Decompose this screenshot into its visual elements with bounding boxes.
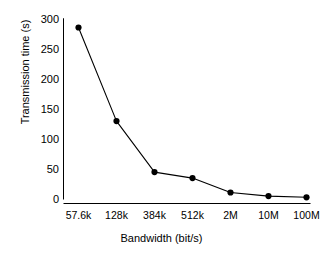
data-point xyxy=(303,194,309,200)
x-tick-label: 128k xyxy=(105,209,128,221)
x-axis-title: Bandwidth (bit/s) xyxy=(0,232,323,244)
plot-area xyxy=(63,14,311,204)
x-tick-label: 10M xyxy=(258,209,278,221)
y-tick-label: 300 xyxy=(25,14,59,25)
y-tick-label: 50 xyxy=(25,164,59,175)
series-markers xyxy=(75,24,309,200)
x-tick-label: 512k xyxy=(181,209,204,221)
x-tick-label: 2M xyxy=(223,209,238,221)
chart-svg xyxy=(63,14,311,204)
x-axis-tick-labels: 57.6k 128k 384k 512k 2M 10M 100M xyxy=(0,209,323,225)
y-tick-label: 0 xyxy=(25,194,59,205)
x-tick-label: 57.6k xyxy=(66,209,92,221)
data-point xyxy=(113,118,119,124)
data-point xyxy=(189,175,195,181)
data-point xyxy=(75,24,81,30)
chart-figure: Transmission time (s) 300 250 200 150 10… xyxy=(0,0,323,255)
data-point xyxy=(265,193,271,199)
x-tick-label: 100M xyxy=(293,209,319,221)
data-point xyxy=(151,169,157,175)
series-line xyxy=(79,28,307,198)
y-tick-label: 200 xyxy=(25,74,59,85)
y-tick-label: 250 xyxy=(25,44,59,55)
y-tick-label: 100 xyxy=(25,134,59,145)
y-tick-label: 150 xyxy=(25,104,59,115)
x-tick-label: 384k xyxy=(143,209,166,221)
data-point xyxy=(227,189,233,195)
